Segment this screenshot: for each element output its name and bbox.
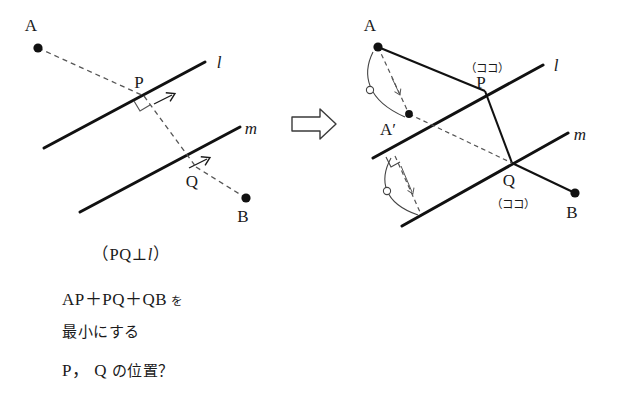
left-line-m-direction-arrow xyxy=(189,159,207,168)
left-label-B: B xyxy=(237,207,248,226)
right-solid-Q-to-B xyxy=(512,163,575,193)
right-reflection-arrow-lower xyxy=(401,166,412,192)
right-diagram: A A′ P Q B l m （ココ） （ココ） xyxy=(364,16,586,226)
question-line-2: 最小にする xyxy=(62,320,140,341)
left-dashed-Q-to-B xyxy=(196,167,246,198)
right-label-A: A xyxy=(364,16,377,35)
left-point-A-dot xyxy=(33,43,42,52)
question-position-text: の位置？ xyxy=(112,362,174,380)
right-point-B-dot xyxy=(570,188,579,197)
left-dashed-A-to-P xyxy=(38,48,144,96)
annotation-here-at-Q: （ココ） xyxy=(491,197,535,211)
right-label-P: P xyxy=(476,73,485,92)
right-point-A-dot xyxy=(373,42,382,51)
left-dashed-P-to-Q xyxy=(144,96,196,167)
condition-line: （PQ⊥l） xyxy=(92,241,170,265)
question-line-1: AP＋PQ＋QBを xyxy=(62,285,183,310)
left-line-l-direction-arrow xyxy=(154,95,172,104)
question-particle-wo: を xyxy=(171,294,183,308)
left-point-B-dot xyxy=(241,193,250,202)
question-point-names: P， Q xyxy=(62,361,107,380)
left-line-l xyxy=(44,62,205,148)
block-arrow-right-icon xyxy=(292,109,336,139)
right-dashed-lower-perpendicular xyxy=(395,156,420,212)
left-label-A: A xyxy=(25,16,38,35)
right-label-B: B xyxy=(566,203,577,222)
right-line-m xyxy=(402,133,568,226)
question-line-3: P， Qの位置？ xyxy=(62,356,174,381)
condition-prefix: （PQ xyxy=(92,245,132,264)
right-label-Aprime: A′ xyxy=(380,120,396,139)
annotation-here-at-P: （ココ） xyxy=(465,61,509,75)
right-arc-tick-lower-icon xyxy=(383,187,390,194)
left-diagram: A P Q B l m xyxy=(25,16,257,226)
left-label-line-m: m xyxy=(245,119,257,138)
implies-arrow xyxy=(292,109,336,139)
left-line-m xyxy=(80,127,240,212)
right-reflection-arrow-upper xyxy=(392,78,399,93)
left-label-line-l: l xyxy=(217,53,222,72)
geometry-figure: A P Q B l m xyxy=(0,0,637,417)
left-label-P: P xyxy=(134,73,143,92)
right-arc-tick-upper-icon xyxy=(366,86,373,93)
right-label-Q: Q xyxy=(503,171,515,190)
left-label-Q: Q xyxy=(186,172,198,191)
right-label-line-m: m xyxy=(574,125,586,144)
question-expression: AP＋PQ＋QB xyxy=(62,290,167,309)
right-point-Aprime-dot xyxy=(405,110,413,118)
perpendicular-symbol: ⊥ xyxy=(132,245,148,264)
right-arc-A-to-Aprime xyxy=(368,52,405,117)
left-right-angle-mark-at-P xyxy=(134,101,150,111)
right-label-line-l: l xyxy=(554,56,559,75)
figure-canvas: A P Q B l m xyxy=(0,0,637,417)
condition-suffix: ） xyxy=(153,245,171,264)
